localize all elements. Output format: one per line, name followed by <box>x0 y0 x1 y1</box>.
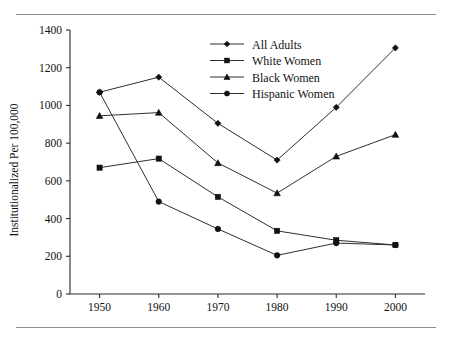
legend-item-black-women: Black Women <box>210 71 320 85</box>
x-axis-ticks: 195019601970198019902000 <box>88 294 407 313</box>
data-point-marker <box>225 58 230 63</box>
legend-label: All Adults <box>252 38 302 52</box>
data-series-group <box>96 45 398 258</box>
y-axis-ticks: 0200400600800100012001400 <box>39 24 70 300</box>
bottom-divider-rule <box>16 327 436 328</box>
series-all-adults <box>96 45 398 163</box>
data-point-marker <box>333 240 339 246</box>
data-point-marker <box>97 89 103 95</box>
x-tick-label: 1950 <box>88 301 111 313</box>
y-tick-label: 1000 <box>39 99 62 111</box>
x-tick-label: 1970 <box>206 301 229 313</box>
y-tick-label: 1200 <box>39 62 62 74</box>
data-point-marker <box>393 242 399 248</box>
top-divider-rule <box>16 14 436 15</box>
legend-label: Hispanic Women <box>252 87 334 101</box>
data-point-marker <box>274 228 279 233</box>
data-point-marker <box>274 253 280 259</box>
series-line <box>100 113 396 194</box>
series-hispanic-women <box>97 89 398 258</box>
data-point-marker <box>333 153 340 159</box>
y-axis-title: Institutionalized Per 100,000 <box>8 103 21 236</box>
x-tick-label: 1960 <box>147 301 170 313</box>
series-white-women <box>97 156 398 248</box>
y-tick-label: 800 <box>45 137 63 149</box>
data-point-marker <box>224 91 229 96</box>
series-line <box>100 48 396 160</box>
chart-legend: All AdultsWhite WomenBlack WomenHispanic… <box>210 38 334 102</box>
x-tick-label: 1990 <box>325 301 348 313</box>
data-point-marker <box>156 156 161 161</box>
data-point-marker <box>215 226 221 232</box>
legend-item-all-adults: All Adults <box>210 38 302 52</box>
y-tick-label: 200 <box>45 250 63 262</box>
legend-item-white-women: White Women <box>210 54 321 68</box>
legend-label: White Women <box>252 54 321 68</box>
axis-lines <box>70 30 425 294</box>
legend-item-hispanic-women: Hispanic Women <box>210 87 334 101</box>
data-point-marker <box>97 165 102 170</box>
legend-label: Black Women <box>252 71 320 85</box>
series-line <box>100 159 396 245</box>
data-point-marker <box>215 194 220 199</box>
x-tick-label: 2000 <box>384 301 407 313</box>
data-point-marker <box>274 190 281 196</box>
x-tick-label: 1980 <box>266 301 289 313</box>
data-point-marker <box>156 199 162 205</box>
series-line <box>100 92 396 255</box>
y-tick-label: 600 <box>45 175 63 187</box>
y-tick-label: 0 <box>56 288 62 300</box>
data-point-marker <box>392 131 399 137</box>
data-point-marker <box>224 41 230 47</box>
chart-canvas: 0200400600800100012001400 19501960197019… <box>0 18 452 323</box>
series-black-women <box>96 109 398 196</box>
y-tick-label: 1400 <box>39 24 62 36</box>
line-chart-figure: 0200400600800100012001400 19501960197019… <box>0 18 452 323</box>
y-tick-label: 400 <box>45 213 63 225</box>
